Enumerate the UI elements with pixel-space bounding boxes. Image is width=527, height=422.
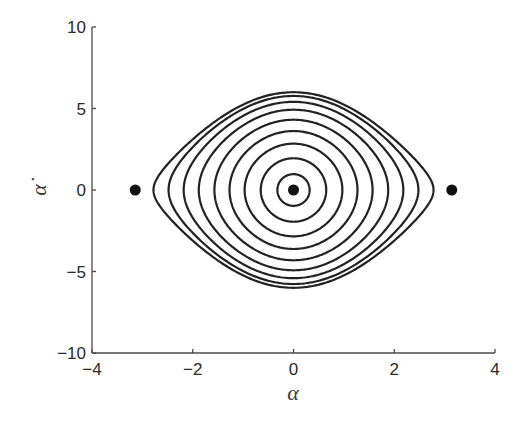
y-tick-label: 10 bbox=[67, 18, 86, 37]
y-tick-label: 0 bbox=[77, 181, 86, 200]
x-axis-label: α bbox=[287, 380, 299, 405]
y-ticks: −10−50510 bbox=[57, 18, 96, 363]
equilibrium-points bbox=[130, 185, 458, 196]
x-tick-label: 0 bbox=[289, 360, 298, 379]
x-tick-label: −4 bbox=[82, 360, 101, 379]
equilibrium-point bbox=[446, 185, 457, 196]
x-tick-label: 4 bbox=[490, 360, 499, 379]
y-axis-label: α̇ bbox=[26, 177, 51, 196]
x-axis: −4−2024 bbox=[82, 349, 499, 379]
x-tick-label: −2 bbox=[183, 360, 202, 379]
equilibrium-point bbox=[130, 185, 141, 196]
y-tick-label: −5 bbox=[67, 263, 86, 282]
y-tick-label: 5 bbox=[77, 100, 86, 119]
phase-portrait-chart: −10−50510 −4−2024 α α̇ bbox=[0, 0, 527, 422]
x-tick-label: 2 bbox=[390, 360, 399, 379]
equilibrium-point bbox=[288, 185, 299, 196]
y-axis: −10−50510 bbox=[57, 18, 96, 363]
